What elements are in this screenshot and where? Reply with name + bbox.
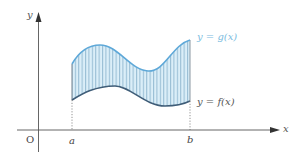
x-axis-label: x: [283, 124, 289, 134]
bound-b-label: b: [187, 135, 193, 145]
origin-label: O: [26, 135, 34, 145]
x-axis-arrow-icon: [270, 127, 280, 133]
curve-g-label: y = g(x): [197, 32, 237, 42]
diagram-canvas: [0, 0, 291, 161]
y-axis-arrow-icon: [36, 12, 42, 22]
shaded-region: [72, 40, 190, 106]
area-between-curves-diagram: y x O a b y = g(x) y = f(x): [0, 0, 291, 161]
curve-f-label: y = f(x): [197, 97, 235, 107]
y-axis-label: y: [27, 10, 33, 20]
bound-a-label: a: [69, 136, 75, 146]
